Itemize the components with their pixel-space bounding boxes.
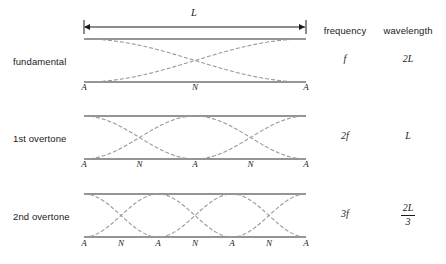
wave-envelope-b [84,116,306,159]
antinode-label-first-overtone-0: A [77,159,91,169]
fraction-numerator: 2L [388,203,428,214]
wavelength-value-fundamental: 2L [378,53,438,64]
node-label-second-overtone-5: N [262,238,276,248]
frequency-value-first-overtone: 2f [315,130,375,141]
node-label-fundamental-1: N [188,82,202,92]
antinode-label-fundamental-0: A [77,82,91,92]
wave-envelope-a [84,194,306,237]
fraction-denominator: 3 [388,217,428,228]
antinode-label-second-overtone-4: A [225,238,239,248]
node-label-first-overtone-1: N [133,159,147,169]
wavelength-value-first-overtone: L [378,130,438,141]
row-label-first-overtone: 1st overtone [13,133,66,144]
row-label-second-overtone: 2nd overtone [13,211,70,222]
node-label-second-overtone-1: N [114,238,128,248]
frequency-value-second-overtone: 3f [315,208,375,219]
node-label-second-overtone-3: N [188,238,202,248]
wavelength-value-second-overtone: 2L3 [388,203,428,227]
antinode-label-first-overtone-2: A [188,159,202,169]
standing-wave-harmonics-figure: Lfrequencywavelengthfundamentalf2LANA1st… [0,0,446,264]
node-label-first-overtone-3: N [244,159,258,169]
frequency-value-fundamental: f [315,53,375,64]
wave-envelope-b [84,194,306,237]
wave-envelope-a [84,39,306,82]
wave-envelope-b [84,39,306,82]
wave-envelope-a [84,116,306,159]
row-label-fundamental: fundamental [13,56,66,67]
antinode-label-fundamental-2: A [299,82,313,92]
antinode-label-second-overtone-2: A [151,238,165,248]
antinode-label-second-overtone-6: A [299,238,313,248]
antinode-label-second-overtone-0: A [77,238,91,248]
length-label: L [191,7,197,18]
antinode-label-first-overtone-4: A [299,159,313,169]
column-header-wavelength: wavelength [348,25,446,36]
